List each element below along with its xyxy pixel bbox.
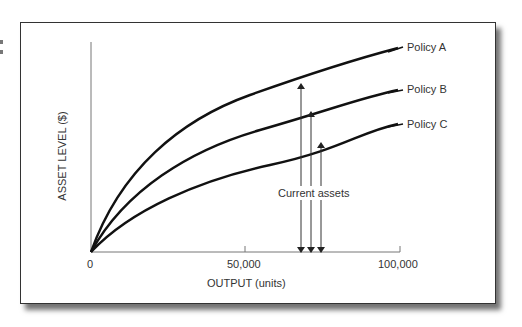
annotation-current-assets: Current assets: [278, 187, 350, 199]
legend-policy-b: Policy B: [407, 83, 447, 95]
x-axis-title: OUTPUT (units): [207, 277, 286, 289]
x-tick-label-100k: 100,000: [378, 258, 418, 270]
x-tick-label-50k: 50,000: [227, 258, 261, 270]
y-axis-title: ASSET LEVEL ($): [56, 96, 68, 216]
curve-policy-a: [91, 48, 398, 252]
legend-policy-a: Policy A: [407, 41, 446, 53]
legend-policy-c: Policy C: [407, 118, 447, 130]
x-tick-label-0: 0: [87, 258, 93, 270]
curve-policy-c: [91, 124, 398, 252]
